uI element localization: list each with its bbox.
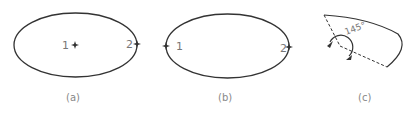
orbit-ellipse-b: [166, 14, 289, 78]
point-1-label-a: 1: [62, 39, 69, 52]
panel-a: 1 2 (a): [14, 13, 141, 103]
caption-c: (c): [358, 92, 371, 103]
caption-a: (a): [66, 92, 80, 103]
radius-line-2-c: [340, 46, 387, 67]
radius-line-1-c: [324, 15, 340, 46]
panel-b: 1 2 (b): [162, 14, 293, 103]
angle-arc-c: [330, 35, 353, 56]
point-1-label-b: 1: [176, 40, 183, 53]
point-2-label-a: 2: [126, 38, 133, 51]
point-2-label-b: 2: [280, 42, 287, 55]
point-1-marker-a: [71, 41, 79, 49]
angle-label-c: 145°: [343, 20, 367, 37]
point-2-marker-a: [133, 40, 141, 48]
panel-c: 145° (c): [324, 15, 402, 103]
point-1-marker-b: [162, 42, 170, 50]
caption-b: (b): [218, 92, 232, 103]
arrowhead-start-icon: [327, 41, 333, 48]
diagram-canvas: 1 2 (a) 1 2 (b) 145° (c): [0, 0, 415, 114]
